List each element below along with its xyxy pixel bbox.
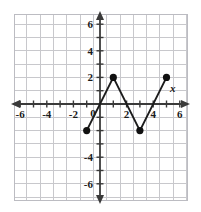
data-point-marker — [110, 74, 117, 81]
x-tick-label: -2 — [69, 108, 79, 120]
data-point-marker — [136, 127, 143, 134]
y-tick-label: -6 — [84, 178, 94, 190]
y-tick-label: -4 — [84, 151, 94, 163]
coordinate-plane-figure: -6-4-20246642-4-6 x — [0, 0, 201, 212]
data-point-marker — [163, 74, 170, 81]
x-tick-label: -6 — [16, 108, 26, 120]
y-tick-label: 4 — [88, 45, 94, 57]
y-tick-label: 2 — [88, 71, 94, 83]
coordinate-plane-svg: -6-4-20246642-4-6 x — [0, 0, 201, 212]
x-axis-label: x — [169, 82, 176, 94]
x-tick-label: -4 — [42, 108, 52, 120]
y-tick-label: 6 — [88, 18, 94, 30]
x-tick-label: 6 — [177, 108, 183, 120]
data-point-marker — [83, 127, 90, 134]
